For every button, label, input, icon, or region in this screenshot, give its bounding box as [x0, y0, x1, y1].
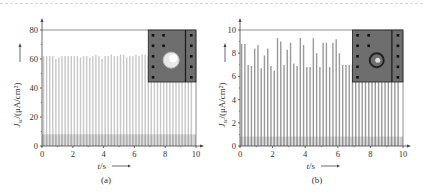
bar-a-25	[120, 55, 121, 146]
x-tick-label-a: 2	[71, 149, 75, 159]
bar-b-22	[313, 38, 314, 146]
bar-b-0	[241, 44, 242, 146]
gap-b-41	[376, 137, 377, 146]
gap-a-17	[97, 134, 98, 146]
gap-a-24	[119, 134, 120, 146]
gap-a-4	[57, 134, 58, 146]
y-axis-arrowhead-a	[41, 18, 44, 22]
gap-a-5	[60, 134, 61, 146]
bar-b-26	[326, 43, 327, 146]
y-tick-label-a: 40	[30, 83, 39, 93]
gap-a-44	[180, 134, 181, 146]
bar-a-14	[86, 56, 87, 146]
bar-b-32	[345, 65, 346, 146]
gap-a-28	[131, 134, 132, 146]
gap-a-43	[177, 134, 178, 146]
gap-b-4	[256, 137, 257, 146]
gap-b-28	[334, 137, 335, 146]
x-arrowhead-b	[337, 165, 340, 168]
gap-b-21	[311, 137, 312, 146]
plot-area-a: 0204060800246810	[30, 18, 205, 159]
gap-b-43	[383, 137, 384, 146]
inset-dot-a	[190, 66, 193, 69]
gap-b-18	[302, 137, 303, 146]
inset-dot-b	[356, 45, 359, 48]
bar-a-30	[135, 55, 136, 146]
inset-dot-a	[152, 34, 155, 37]
inset-dot-b	[367, 34, 370, 37]
gap-b-12	[282, 137, 283, 146]
y-label-arrowhead-b	[224, 43, 227, 47]
x-axis-label-b: t/s	[306, 161, 340, 171]
inset-dot-b	[367, 45, 370, 48]
bar-a-22	[111, 55, 112, 146]
gap-b-15	[292, 137, 293, 146]
gap-a-41	[171, 134, 172, 146]
gap-a-37	[159, 134, 160, 146]
inset-dot-a	[152, 55, 155, 58]
gap-b-44	[386, 137, 387, 146]
gap-a-42	[174, 134, 175, 146]
gap-a-48	[193, 134, 194, 146]
chart-panel-b: 02468100246810 Jsc/(μA/cm²) t/s (b)	[211, 0, 423, 194]
bar-b-24	[319, 67, 320, 146]
inset-photo-a	[148, 30, 196, 82]
bar-a-28	[129, 56, 130, 146]
gap-a-12	[82, 134, 83, 146]
gap-b-13	[285, 137, 286, 146]
bar-a-24	[117, 56, 118, 146]
bar-b-16	[293, 64, 294, 146]
x-tick-label-b: 10	[399, 149, 408, 159]
gap-b-45	[390, 137, 391, 146]
bar-b-1	[244, 44, 245, 146]
chart-panel-a: 0204060800246810 Jsc/(μA/cm²) t/s (a)	[0, 0, 212, 194]
panel-label-b: (b)	[312, 175, 323, 185]
svg-text:t/s: t/s	[306, 161, 315, 171]
inset-dot-a	[152, 66, 155, 69]
gap-b-36	[360, 137, 361, 146]
y-tick-label-b: 2	[232, 118, 236, 128]
bar-b-3	[251, 66, 252, 146]
bar-b-30	[339, 53, 340, 146]
gap-b-35	[357, 137, 358, 146]
bar-b-27	[329, 67, 330, 146]
bar-b-33	[349, 65, 350, 146]
gap-b-2	[249, 137, 250, 146]
inset-dot-a	[162, 34, 165, 37]
y-tick-label-b: 4	[232, 95, 237, 105]
x-axis-arrowhead-b	[407, 145, 411, 148]
gap-a-6	[63, 134, 64, 146]
inset-photo-b	[352, 30, 403, 82]
gap-b-39	[370, 137, 371, 146]
bar-b-21	[309, 67, 310, 146]
bar-a-17	[95, 55, 96, 146]
x-tick-label-b: 4	[303, 149, 308, 159]
bar-b-17	[296, 66, 297, 146]
bar-a-6	[61, 56, 62, 146]
bar-a-16	[92, 56, 93, 146]
inset-dot-a	[190, 45, 193, 48]
gap-a-8	[69, 134, 70, 146]
x-tick-label-a: 4	[101, 149, 106, 159]
svg-text:t/s: t/s	[97, 161, 106, 171]
gap-b-34	[354, 137, 355, 146]
gap-b-16	[295, 137, 296, 146]
inset-dot-b	[397, 55, 400, 58]
inset-dot-b	[356, 76, 359, 79]
bar-a-20	[104, 56, 105, 146]
x-tick-label-a: 0	[40, 149, 44, 159]
gap-b-37	[363, 137, 364, 146]
y-label-arrowhead-a	[19, 43, 22, 47]
gap-a-46	[186, 134, 187, 146]
gap-b-20	[308, 137, 309, 146]
gap-a-47	[190, 134, 191, 146]
gap-a-45	[183, 134, 184, 146]
gap-b-27	[331, 137, 332, 146]
gap-b-14	[288, 137, 289, 146]
gap-a-9	[72, 134, 73, 146]
gap-b-24	[321, 137, 322, 146]
inset-dot-b	[356, 34, 359, 37]
gap-b-19	[305, 137, 306, 146]
gap-a-31	[140, 134, 141, 146]
inset-dot-a	[190, 55, 193, 58]
